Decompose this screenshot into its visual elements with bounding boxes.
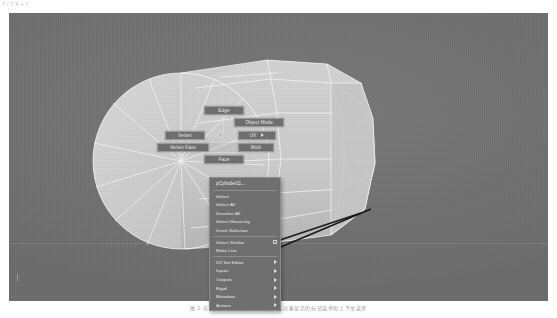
marking-menu-label: Edge (218, 107, 229, 114)
marking-menu-item-object-mode[interactable]: Object Mode (234, 118, 284, 127)
marking-menu-item-vertex[interactable]: Vertex (165, 131, 205, 140)
marking-menu-label: Vertex Face (170, 144, 196, 151)
context-menu-item-select[interactable]: Select (210, 192, 280, 201)
context-menu-label: Select Hierarchy (216, 218, 270, 225)
context-menu-item-rigid[interactable]: Rigid (210, 284, 280, 293)
marking-menu-item-face[interactable]: Face (204, 155, 244, 164)
marking-menu-label: Object Mode (245, 119, 273, 126)
context-menu-item-select-hierarchy[interactable]: Select Hierarchy (210, 218, 280, 227)
chevron-right-icon (274, 303, 277, 307)
marking-menu-label: Face (219, 156, 230, 163)
context-menu-item-deselect-all[interactable]: Deselect All (210, 209, 280, 218)
viewport-corner-tick (17, 274, 18, 281)
context-menu-label: Select All (216, 201, 270, 208)
context-menu-label: UV Set Editor (216, 259, 270, 266)
context-menu-label: Rigid (216, 285, 270, 292)
chevron-right-icon (261, 133, 264, 137)
context-menu-label: Select (216, 193, 270, 200)
context-menu-item-make-live[interactable]: Make Live (210, 247, 280, 256)
context-menu-label: Invert Selection (216, 227, 270, 234)
marking-menu-hub (218, 132, 223, 138)
context-menu-label: Actions (216, 302, 270, 309)
context-menu-item-outputs[interactable]: Outputs (210, 275, 280, 284)
marking-menu-item-multi[interactable]: Multi (238, 143, 274, 152)
marking-menu-item-vertex-face[interactable]: Vertex Face (157, 143, 209, 152)
marking-menu-item-uv[interactable]: UV (238, 131, 276, 140)
context-menu-label: Make Live (216, 247, 270, 254)
marking-menu-label: Vertex (178, 132, 192, 139)
context-menu-item-metadata[interactable]: Metadata (210, 293, 280, 302)
context-menu-item-invert-selection[interactable]: Invert Selection (210, 226, 280, 235)
context-menu-item-select-similar[interactable]: Select Similar (210, 238, 280, 247)
marking-menu-stem (223, 114, 224, 132)
context-menu-item-actions[interactable]: Actions (210, 301, 280, 310)
marking-menu-item-edge[interactable]: Edge (204, 106, 244, 115)
marking-menu-label: UV (250, 132, 257, 139)
chevron-right-icon (274, 278, 277, 282)
chevron-right-icon (274, 295, 277, 299)
context-menu-label: Metadata (216, 293, 270, 300)
corner-artifact-text: 7 / 7 4 + 7 (2, 1, 29, 7)
context-menu-label: Deselect All (216, 210, 270, 217)
context-menu[interactable]: pCylinder11... Select Select All Deselec… (209, 177, 281, 311)
context-menu-label: Outputs (216, 276, 270, 283)
context-menu-separator (213, 256, 277, 257)
context-menu-label: Inputs (216, 267, 270, 274)
context-menu-title: pCylinder11... (210, 178, 280, 189)
checkbox-icon[interactable] (273, 240, 277, 244)
chevron-right-icon (274, 286, 277, 290)
marking-menu[interactable]: Edge Object Mode Vertex UV Vertex Face M… (148, 106, 318, 178)
context-menu-item-inputs[interactable]: Inputs (210, 267, 280, 276)
screenshot-root: 7 / 7 4 + 7 (0, 0, 557, 318)
marking-menu-label: Multi (251, 144, 261, 151)
chevron-right-icon (274, 260, 277, 264)
context-menu-item-uv-set-editor[interactable]: UV Set Editor (210, 258, 280, 267)
context-menu-label: Select Similar (216, 239, 270, 246)
chevron-right-icon (274, 269, 277, 273)
context-menu-separator (213, 190, 277, 191)
context-menu-item-select-all[interactable]: Select All (210, 201, 280, 210)
context-menu-separator (213, 236, 277, 237)
